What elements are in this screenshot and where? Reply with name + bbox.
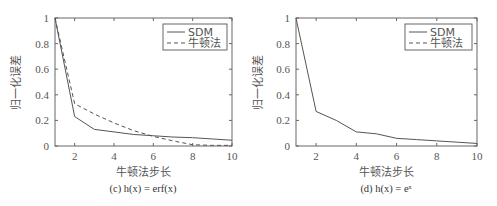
x-tick-label: 10 — [472, 150, 484, 162]
legend-label: 牛顿法 — [430, 36, 463, 50]
y-axis-label: 归一化误差 — [9, 55, 23, 110]
x-axis-label: 牛顿法步长 — [116, 165, 171, 179]
x-tick-label: 10 — [227, 150, 239, 162]
legend: SDM牛顿法 — [163, 24, 227, 50]
y-tick-label: 0 — [285, 140, 291, 152]
y-tick-label: 0.8 — [276, 38, 290, 50]
y-tick-label: 0.6 — [35, 63, 49, 75]
chart-c: 24681000.20.40.60.81SDM牛顿法牛顿法步长归一化误差(c) … — [9, 12, 238, 195]
x-tick-label: 4 — [354, 150, 360, 162]
chart-d: 24681000.20.40.60.81SDM牛顿法牛顿法步长归一化误差(d) … — [251, 12, 483, 195]
x-axis-label: 牛顿法步长 — [359, 165, 414, 179]
figure-caption: (d) h(x) = eˣ — [360, 183, 412, 195]
x-tick-label: 6 — [394, 150, 400, 162]
x-tick-label: 2 — [313, 150, 319, 162]
y-axis-label: 归一化误差 — [251, 55, 265, 110]
y-tick-label: 0.8 — [35, 38, 49, 50]
y-tick-label: 0 — [44, 140, 50, 152]
x-tick-label: 2 — [72, 150, 78, 162]
figure: 24681000.20.40.60.81SDM牛顿法牛顿法步长归一化误差(c) … — [0, 0, 497, 206]
y-tick-label: 1 — [285, 12, 291, 24]
y-tick-label: 0.4 — [35, 89, 49, 101]
x-tick-label: 8 — [190, 150, 196, 162]
y-tick-label: 0.6 — [276, 63, 290, 75]
x-tick-label: 8 — [434, 150, 440, 162]
y-tick-label: 0.2 — [276, 114, 290, 126]
y-tick-label: 0.4 — [276, 89, 290, 101]
y-tick-label: 1 — [44, 12, 50, 24]
y-tick-label: 0.2 — [35, 114, 49, 126]
x-tick-label: 6 — [151, 150, 157, 162]
x-tick-label: 4 — [111, 150, 117, 162]
legend-label: 牛顿法 — [188, 36, 221, 50]
figure-caption: (c) h(x) = erf(x) — [110, 183, 177, 195]
legend: SDM牛顿法 — [405, 24, 472, 50]
